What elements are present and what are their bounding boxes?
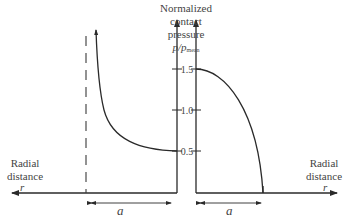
y-axis-title-line-3: pressure — [146, 28, 226, 41]
right-dimension-label: a — [226, 204, 233, 217]
right-r-symbol: r — [323, 181, 327, 194]
left-dimension-label: a — [117, 204, 124, 217]
y-axis-title-line-2: contact — [146, 15, 226, 28]
y-axis-symbol: p/pmean — [146, 41, 226, 57]
tick-label-0.5: 0.5 — [178, 145, 196, 158]
tick-label-1.5: 1.5 — [178, 63, 196, 76]
tick-label-1.0: 1.0 — [178, 104, 196, 117]
left-radial-label: Radial distance — [0, 157, 50, 183]
right-radial-label: Radial distance — [299, 157, 349, 183]
y-axis-title-line-1: Normalized — [146, 2, 226, 15]
hertz-pressure-curve — [196, 69, 263, 193]
left-r-symbol: r — [20, 181, 24, 194]
y-axis-title: Normalized contact pressure p/pmean — [146, 2, 226, 57]
